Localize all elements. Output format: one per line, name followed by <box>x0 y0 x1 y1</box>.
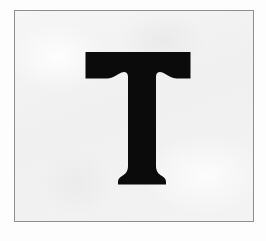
letter-card: T <box>14 10 254 222</box>
image-canvas: T <box>0 0 266 241</box>
letter-t-path <box>86 52 191 185</box>
capital-letter-t-icon <box>15 11 253 221</box>
glyph-layer: T <box>15 11 253 221</box>
